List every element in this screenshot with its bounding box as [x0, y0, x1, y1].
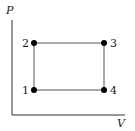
- point-label-1: 1: [22, 84, 29, 97]
- point-2: [31, 40, 37, 46]
- point-1: [31, 87, 37, 93]
- pv-diagram-svg: P V 1 2 3 4: [0, 0, 135, 131]
- axes: P V: [5, 4, 126, 130]
- point-label-3: 3: [110, 37, 117, 50]
- point-label-4: 4: [110, 84, 117, 97]
- y-axis-label: P: [5, 4, 14, 17]
- pv-diagram: P V 1 2 3 4: [0, 0, 135, 131]
- point-label-2: 2: [22, 37, 29, 50]
- x-axis-label: V: [117, 117, 126, 130]
- point-3: [101, 40, 107, 46]
- cycle-points: [31, 40, 107, 93]
- point-4: [101, 87, 107, 93]
- cycle-edges: [34, 43, 104, 90]
